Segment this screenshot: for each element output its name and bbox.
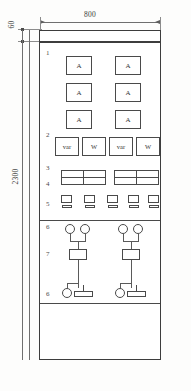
callout-item-3: 3 (46, 164, 50, 172)
pushbutton-base-icon (129, 205, 139, 209)
ammeter-box: A (66, 56, 92, 75)
control-switch-box[interactable] (122, 249, 140, 260)
indicator-lamp-icon[interactable] (115, 288, 125, 298)
pushbutton-cap-icon (148, 195, 159, 203)
lamp-lead-wire (85, 234, 86, 241)
lamp-lead-wire (138, 234, 139, 241)
pushbutton-unit[interactable] (128, 195, 139, 209)
pushbutton-base-icon (108, 205, 118, 209)
control-drop-wire (78, 241, 79, 249)
pushbutton-base-icon (62, 205, 72, 209)
varmeter-box: var (109, 137, 133, 156)
dimension-width-label: 800 (84, 10, 96, 19)
callout-item-2: 2 (46, 131, 50, 139)
ammeter-box: A (66, 83, 92, 102)
dimension-height-line (22, 30, 23, 360)
control-switch-box[interactable] (69, 249, 87, 260)
lamp-lead-wire (123, 234, 124, 241)
instrument-control-separator (40, 220, 160, 221)
relay-cell (115, 178, 137, 185)
drawing-canvas: 800 60 2300 1 2 3 4 5 6 7 6 A A A A A A … (0, 0, 191, 391)
disconnect-switch-stem (136, 285, 137, 291)
ammeter-box: A (66, 110, 92, 129)
varmeter-box: var (55, 137, 79, 156)
callout-item-1: 1 (46, 49, 50, 57)
indicator-lamp-icon[interactable] (80, 224, 90, 234)
callout-item-7: 7 (46, 250, 50, 258)
pushbutton-unit[interactable] (61, 195, 72, 209)
extension-line-right (160, 17, 161, 31)
control-drop-wire (131, 241, 132, 249)
pushbutton-cap-icon (84, 195, 95, 203)
disconnect-switch-bar[interactable] (74, 291, 93, 297)
dimension-height-line-inner (29, 30, 30, 360)
pushbutton-cap-icon (107, 195, 118, 203)
pushbutton-cap-icon (61, 195, 72, 203)
lamp-lead-wire (70, 234, 71, 241)
pushbutton-unit[interactable] (107, 195, 118, 209)
callout-item-6-lower: 6 (46, 290, 50, 298)
lower-blank-compartment (40, 304, 160, 359)
relay-block (114, 170, 159, 185)
pushbutton-unit[interactable] (84, 195, 95, 209)
relay-cell (84, 178, 106, 185)
callout-item-6-upper: 6 (46, 223, 50, 231)
pushbutton-base-icon (85, 205, 95, 209)
wattmeter-box: W (136, 137, 160, 156)
callout-item-5: 5 (46, 200, 50, 208)
indicator-lamp-icon[interactable] (118, 224, 128, 234)
dimension-width-line (40, 22, 160, 23)
callout-item-4: 4 (46, 180, 50, 188)
relay-block (61, 170, 106, 185)
pushbutton-cap-icon (128, 195, 139, 203)
top-band-separator (39, 41, 161, 43)
disconnect-switch-stem (83, 285, 84, 291)
relay-cell (62, 178, 84, 185)
pushbutton-unit[interactable] (148, 195, 159, 209)
wattmeter-box: W (82, 137, 106, 156)
dimension-band-label: 60 (7, 16, 16, 34)
ammeter-box: A (115, 56, 141, 75)
dimension-height-label: 2300 (11, 160, 20, 194)
ammeter-box: A (115, 110, 141, 129)
disconnect-switch-bar[interactable] (127, 291, 146, 297)
switch-link-wire (67, 283, 78, 284)
switch-link-wire (120, 283, 131, 284)
relay-cell (137, 178, 159, 185)
indicator-lamp-icon[interactable] (65, 224, 75, 234)
indicator-lamp-icon[interactable] (62, 288, 72, 298)
ammeter-box: A (115, 83, 141, 102)
indicator-lamp-icon[interactable] (133, 224, 143, 234)
pushbutton-base-icon (149, 205, 159, 209)
